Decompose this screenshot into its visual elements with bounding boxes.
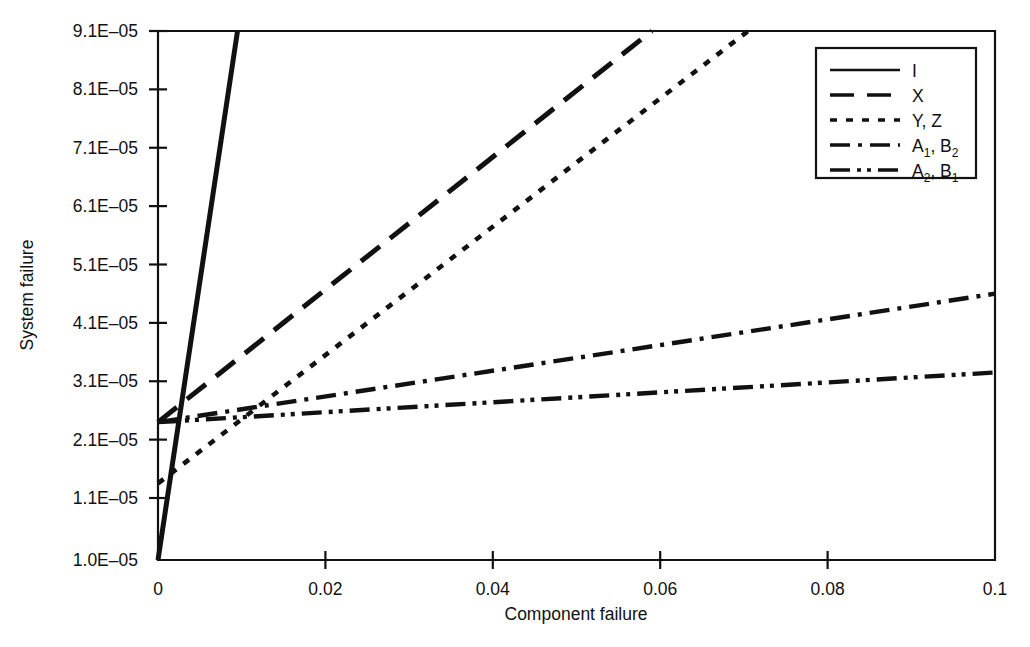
x-axis-title: Component failure bbox=[505, 604, 648, 624]
y-tick-label: 3.1E–05 bbox=[73, 371, 138, 391]
y-tick-label: 1.0E–05 bbox=[73, 550, 138, 570]
y-tick-label: 6.1E–05 bbox=[73, 196, 138, 216]
y-tick-label: 9.1E–05 bbox=[73, 21, 138, 41]
legend: IXY, ZA1, B2A2, B1 bbox=[816, 48, 976, 185]
x-tick-label: 0.1 bbox=[983, 579, 1007, 599]
series-line-a2-b1 bbox=[158, 372, 995, 422]
series-line-a1-b2 bbox=[158, 294, 995, 422]
x-tick-label: 0.08 bbox=[811, 579, 845, 599]
y-axis-title: System failure bbox=[17, 240, 37, 351]
series-line-x bbox=[158, 31, 652, 422]
y-tick-label: 7.1E–05 bbox=[73, 138, 138, 158]
x-tick-label: 0 bbox=[153, 579, 163, 599]
y-axis-tick-labels: 1.0E–051.1E–052.1E–053.1E–054.1E–055.1E–… bbox=[73, 21, 138, 570]
line-chart: 1.0E–051.1E–052.1E–053.1E–054.1E–055.1E–… bbox=[0, 0, 1030, 647]
x-tick-label: 0.04 bbox=[476, 579, 510, 599]
legend-label-1: I bbox=[912, 61, 917, 81]
series-line-i bbox=[158, 31, 238, 560]
legend-label-2: X bbox=[912, 86, 924, 106]
x-axis-tick-labels: 00.020.040.060.080.1 bbox=[153, 579, 1007, 599]
y-tick-label: 1.1E–05 bbox=[73, 488, 138, 508]
x-tick-label: 0.06 bbox=[643, 579, 677, 599]
chart-figure: 1.0E–051.1E–052.1E–053.1E–054.1E–055.1E–… bbox=[0, 0, 1030, 647]
y-tick-label: 4.1E–05 bbox=[73, 313, 138, 333]
y-tick-label: 5.1E–05 bbox=[73, 255, 138, 275]
legend-label-5: A2, B1 bbox=[912, 161, 959, 185]
x-tick-label: 0.02 bbox=[308, 579, 342, 599]
y-tick-label: 2.1E–05 bbox=[73, 430, 138, 450]
y-tick-label: 8.1E–05 bbox=[73, 79, 138, 99]
legend-label-3: Y, Z bbox=[912, 111, 942, 131]
